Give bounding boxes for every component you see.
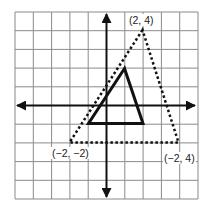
- axes: [17, 14, 195, 197]
- dilated-triangle: [70, 30, 179, 143]
- label-bottom-right-vertex: (−2, 4): [163, 152, 196, 164]
- coordinate-grid-figure: [0, 0, 206, 209]
- label-top-vertex: (2, 4): [128, 14, 155, 26]
- label-bottom-left-vertex: (−2, −2): [51, 147, 90, 159]
- original-triangle: [89, 69, 144, 124]
